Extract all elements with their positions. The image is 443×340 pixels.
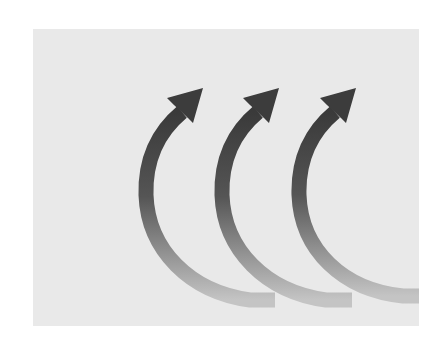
curved-arrows-illustration [0, 0, 443, 340]
curved-arrow-icon-3 [299, 88, 425, 296]
